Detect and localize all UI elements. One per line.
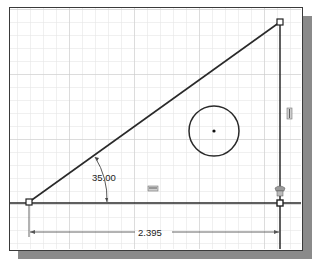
circle-center-point[interactable] bbox=[212, 129, 215, 132]
length-dimension-value[interactable]: 2.395 bbox=[138, 227, 162, 238]
endpoint-bottom-left[interactable] bbox=[26, 199, 32, 205]
grid-major bbox=[10, 8, 301, 249]
sketch-graphics[interactable]: 35.00 2.395 bbox=[0, 0, 321, 262]
vertical-constraint-icon[interactable] bbox=[287, 108, 292, 119]
horizontal-constraint-icon[interactable] bbox=[148, 186, 158, 191]
endpoint-bottom-right[interactable] bbox=[277, 200, 283, 206]
endpoint-top-right[interactable] bbox=[277, 19, 283, 25]
angle-dimension-value[interactable]: 35.00 bbox=[92, 172, 116, 183]
